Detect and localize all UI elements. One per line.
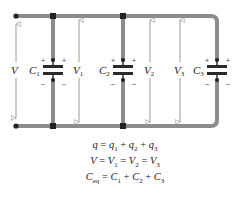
svg-text:–: –	[132, 80, 136, 87]
plate-top	[207, 65, 227, 68]
node-bottom-c2	[120, 123, 126, 129]
svg-text:+: +	[226, 57, 230, 64]
plate-bottom	[43, 72, 63, 75]
equation-voltage-rhs: V1 = V2 = V3	[108, 155, 160, 166]
svg-text:–: –	[226, 80, 230, 87]
svg-text:–: –	[111, 80, 115, 87]
equation-charge: q = q1 + q2 + q3	[0, 139, 250, 153]
plate-top	[43, 65, 63, 68]
label-c2: C2	[99, 64, 110, 78]
top-wire	[16, 16, 217, 60]
svg-text:–: –	[205, 80, 209, 87]
equation-charge-rhs: q1 + q2 + q3	[109, 139, 158, 150]
labels: V C1 V1 C2 V2 V3 C3	[11, 64, 204, 78]
plate-bottom	[207, 72, 227, 75]
svg-text:–: –	[62, 80, 66, 87]
node-bottom-left	[13, 123, 18, 128]
svg-text:+: +	[132, 57, 136, 64]
bottom-wire	[16, 80, 217, 126]
node-bottom-c1	[50, 123, 56, 129]
svg-text:+: +	[111, 57, 115, 64]
node-top-left	[13, 13, 18, 18]
svg-text:+: +	[205, 57, 209, 64]
equation-voltage: V = V1 = V2 = V3	[0, 155, 250, 169]
svg-text:–: –	[41, 80, 45, 87]
equation-capacitance-rhs: C1 + C2 + C3	[110, 171, 164, 182]
node-top-c2	[120, 13, 126, 19]
svg-text:+: +	[62, 57, 66, 64]
plate-top	[113, 65, 133, 68]
plate-bottom	[113, 72, 133, 75]
label-c3: C3	[193, 64, 204, 78]
svg-text:+: +	[41, 57, 45, 64]
node-top-c1	[50, 13, 56, 19]
label-c1: C1	[29, 64, 40, 78]
equation-capacitance: Ceq = C1 + C2 + C3	[0, 171, 250, 185]
